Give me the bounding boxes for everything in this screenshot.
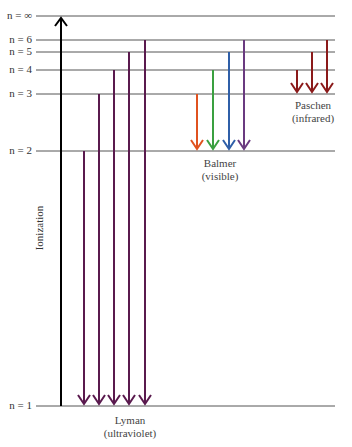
paschen-name: Paschen	[278, 99, 348, 112]
paschen-caption: Paschen (infrared)	[278, 99, 348, 125]
level-label-6: n = 6	[2, 33, 32, 45]
lyman-name: Lyman	[95, 414, 165, 427]
level-label-4: n = 4	[2, 63, 32, 75]
lyman-region: (ultraviolet)	[95, 427, 165, 440]
paschen-arrows	[291, 40, 333, 92]
level-lines	[36, 16, 335, 406]
level-label-3: n = 3	[2, 87, 32, 99]
ionization-label: Ionization	[33, 206, 45, 251]
balmer-name: Balmer	[185, 157, 255, 170]
level-label-inf: n = ∞	[2, 9, 32, 21]
ionization-arrow	[55, 18, 67, 406]
energy-level-diagram	[0, 0, 352, 447]
lyman-caption: Lyman (ultraviolet)	[95, 414, 165, 440]
balmer-caption: Balmer (visible)	[185, 157, 255, 183]
paschen-region: (infrared)	[278, 112, 348, 125]
level-label-2: n = 2	[2, 144, 32, 156]
level-label-1: n = 1	[2, 399, 32, 411]
lyman-arrows	[78, 40, 151, 404]
balmer-region: (visible)	[185, 170, 255, 183]
level-label-5: n = 5	[2, 45, 32, 57]
